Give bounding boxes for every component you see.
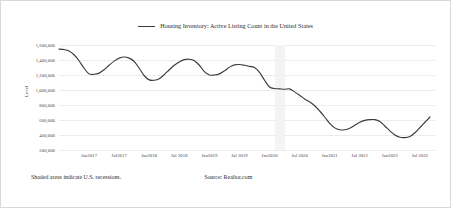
y-tick-label: 1,600,000 <box>36 43 55 48</box>
y-tick-label: 800,000 <box>39 103 55 108</box>
x-tick-label: Jul 2022 <box>412 153 429 158</box>
y-tick-label: 400,000 <box>39 133 55 138</box>
y-axis-tick-labels: 1,600,0001,400,0001,200,0001,000,000800,… <box>1 45 57 150</box>
plot-area <box>59 45 435 150</box>
y-tick-label: 1,000,000 <box>36 88 55 93</box>
x-tick-label: Jan2019 <box>201 153 217 158</box>
recession-footnote: Shaded areas indicate U.S. recessions. <box>31 174 121 180</box>
x-tick-label: Jan2021 <box>322 153 338 158</box>
x-tick-label: Jul 2018 <box>171 153 188 158</box>
series-line-chart <box>59 45 435 150</box>
x-tick-label: Jul 2019 <box>231 153 248 158</box>
y-tick-label: 600,000 <box>39 118 55 123</box>
series-path-housing-inventory <box>59 49 430 138</box>
x-tick-label: Jan2020 <box>262 153 278 158</box>
x-tick-label: Jan2017 <box>81 153 97 158</box>
x-tick-label: Jul 2020 <box>291 153 308 158</box>
x-tick-label: Jan2022 <box>382 153 398 158</box>
legend-line-swatch <box>138 26 155 27</box>
y-tick-label: 1,400,000 <box>36 58 55 63</box>
x-tick-label: Jan2018 <box>141 153 157 158</box>
chart-legend: Housing Inventory: Active Listing Count … <box>1 23 450 29</box>
x-tick-label: Jul 2021 <box>352 153 369 158</box>
source-note: Source: Realtor.com <box>204 174 252 180</box>
y-tick-label: 1,200,000 <box>36 73 55 78</box>
x-tick-label: Jul2017 <box>112 153 127 158</box>
y-tick-label: 200,000 <box>39 148 55 153</box>
chart-footer: Shaded areas indicate U.S. recessions. S… <box>31 174 426 180</box>
gridline <box>59 150 435 151</box>
chart-figure: Housing Inventory: Active Listing Count … <box>0 0 451 208</box>
x-axis-tick-labels: Jan2017Jul2017Jan2018Jul 2018Jan2019Jul … <box>59 153 435 163</box>
legend-label: Housing Inventory: Active Listing Count … <box>160 23 313 29</box>
